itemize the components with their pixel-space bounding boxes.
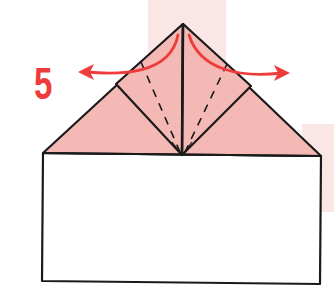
white-rectangle bbox=[42, 153, 321, 284]
center-line bbox=[182, 24, 183, 155]
origami-diagram bbox=[0, 0, 334, 298]
